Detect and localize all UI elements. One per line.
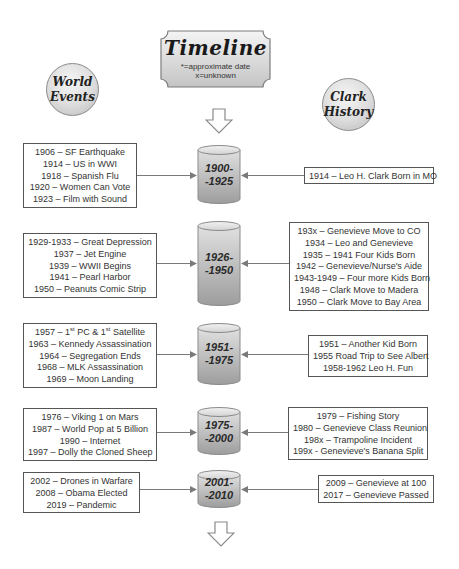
clark-history-box-1900-1925: 1914 – Leo H. Clark Born in MO bbox=[304, 167, 434, 184]
era-label-line2: -2010 bbox=[197, 489, 241, 502]
world-event-item: 1941 – Pearl Harbor bbox=[28, 272, 152, 284]
era-label-line2: -1925 bbox=[197, 175, 241, 188]
clark-history-item: 2017 – Genevieve Passed bbox=[323, 490, 429, 502]
era-label-line1: 1951- bbox=[197, 341, 241, 354]
world-events-line1: World bbox=[50, 75, 95, 90]
world-event-item: 2019 – Pandemic bbox=[28, 500, 135, 512]
clark-history-item: 1934 – Leo and Genevieve bbox=[294, 238, 424, 250]
world-event-item: 1937 – Jet Engine bbox=[28, 249, 152, 261]
clark-history-item: 1958-1962 Leo H. Fun bbox=[313, 363, 423, 375]
era-label-line2: -2000 bbox=[197, 432, 241, 445]
world-event-item: 1976 – Viking 1 on Mars bbox=[28, 412, 152, 424]
legend-approx: *=approximate date bbox=[160, 62, 271, 71]
clark-history-box-2001-2010: 2009 – Genevieve at 100 2017 – Genevieve… bbox=[318, 475, 434, 503]
clark-history-box-1951-1975: 1951 – Another Kid Born 1955 Road Trip t… bbox=[308, 335, 428, 377]
clark-history-line1: Clark bbox=[324, 90, 374, 105]
era-label: 1951--1975 bbox=[197, 341, 241, 367]
world-events-box-1926-1950: 1929-1933 – Great Depression 1937 – Jet … bbox=[23, 233, 157, 298]
world-event-item: 1968 – MLK Assassination bbox=[28, 362, 152, 374]
connector-line bbox=[157, 263, 194, 264]
clark-history-header: Clark History bbox=[322, 78, 375, 131]
connector-line bbox=[157, 432, 194, 433]
era-label: 1975--2000 bbox=[197, 419, 241, 445]
connector-line bbox=[157, 354, 194, 355]
connector-line bbox=[245, 263, 289, 264]
era-cylinder-1926-1950: 1926--1950 bbox=[197, 221, 241, 306]
down-arrow-icon bbox=[207, 521, 235, 547]
world-event-item: 1990 – Internet bbox=[28, 436, 152, 448]
clark-history-item: 1942 – Genevieve/Nurse's Aide bbox=[294, 261, 424, 273]
clark-history-item: 1935 – 1941 Four Kids Born bbox=[294, 250, 424, 262]
clark-history-item: 193x – Genevieve Move to CO bbox=[294, 226, 424, 238]
arrowhead-right-icon bbox=[190, 429, 197, 436]
era-label-line1: 1900- bbox=[197, 162, 241, 175]
clark-history-item: 1950 – Clark Move to Bay Area bbox=[294, 297, 424, 309]
era-label-line1: 2001- bbox=[197, 476, 241, 489]
world-events-box-1951-1975: 1957 – 1st PC & 1st Satellite 1963 – Ken… bbox=[23, 323, 157, 388]
world-events-box-1900-1925: 1906 – SF Earthquake 1914 – US in WWI 19… bbox=[23, 143, 137, 208]
connector-line bbox=[245, 354, 308, 355]
clark-history-item: 1955 Road Trip to See Albert bbox=[313, 351, 423, 363]
clark-history-item: 1948 – Clark Move to Madera bbox=[294, 285, 424, 297]
era-cylinder-1900-1925: 1900--1925 bbox=[197, 145, 241, 204]
world-event-item: 1957 – 1st PC & 1st Satellite bbox=[28, 327, 152, 339]
world-event-item: 1929-1933 – Great Depression bbox=[28, 237, 152, 249]
world-event-item: 1997 – Dolly the Cloned Sheep bbox=[28, 447, 152, 459]
connector-line bbox=[137, 175, 194, 176]
world-event-item: 1964 – Segregation Ends bbox=[28, 351, 152, 363]
connector-line bbox=[245, 432, 288, 433]
legend-unknown: x=unknown bbox=[160, 71, 271, 80]
clark-history-box-1926-1950: 193x – Genevieve Move to CO 1934 – Leo a… bbox=[289, 222, 429, 311]
timeline-title-plaque: Timeline *=approximate date x=unknown bbox=[160, 30, 271, 88]
connector-line bbox=[140, 489, 194, 490]
world-event-item: 1969 – Moon Landing bbox=[28, 374, 152, 386]
era-cylinder-1975-2000: 1975--2000 bbox=[197, 407, 241, 455]
clark-history-box-1975-2000: 1979 – Fishing Story 1980 – Genevieve Cl… bbox=[288, 407, 428, 460]
legend-note: *=approximate date x=unknown bbox=[160, 62, 271, 80]
world-event-item: 1939 – WWII Begins bbox=[28, 261, 152, 273]
world-event-text: Satellite bbox=[110, 327, 145, 337]
era-label: 2001--2010 bbox=[197, 476, 241, 502]
clark-history-item: 2009 – Genevieve at 100 bbox=[323, 478, 429, 490]
era-label-line1: 1926- bbox=[197, 251, 241, 264]
clark-history-item: 1980 – Genevieve Class Reunion bbox=[293, 423, 423, 435]
world-event-text: PC & 1 bbox=[75, 327, 106, 337]
arrowhead-right-icon bbox=[190, 172, 197, 179]
era-label: 1926--1950 bbox=[197, 251, 241, 277]
clark-history-item: 1979 – Fishing Story bbox=[293, 411, 423, 423]
world-event-item: 2002 – Drones in Warfare bbox=[28, 476, 135, 488]
world-event-item: 1963 – Kennedy Assassination bbox=[28, 339, 152, 351]
arrowhead-right-icon bbox=[190, 351, 197, 358]
world-event-item: 1920 – Women Can Vote bbox=[28, 182, 132, 194]
world-events-header: World Events bbox=[46, 63, 99, 116]
clark-history-line2: History bbox=[324, 105, 374, 120]
connector-line bbox=[245, 489, 319, 490]
world-event-item: 1914 – US in WWI bbox=[28, 159, 132, 171]
clark-history-item: 198x – Trampoline Incident bbox=[293, 435, 423, 447]
era-label-line1: 1975- bbox=[197, 419, 241, 432]
clark-history-item: 1951 – Another Kid Born bbox=[313, 339, 423, 351]
era-cylinder-2001-2010: 2001--2010 bbox=[197, 470, 241, 508]
clark-history-item: 1914 – Leo H. Clark Born in MO bbox=[309, 170, 429, 182]
arrowhead-right-icon bbox=[190, 486, 197, 493]
era-cylinder-1951-1975: 1951--1975 bbox=[197, 323, 241, 385]
world-event-item: 1950 – Peanuts Comic Strip bbox=[28, 284, 152, 296]
era-label-line2: -1950 bbox=[197, 264, 241, 277]
world-event-item: 2008 – Obama Elected bbox=[28, 488, 135, 500]
down-arrow-icon bbox=[205, 108, 233, 134]
page-title: Timeline bbox=[160, 36, 271, 60]
era-label-line2: -1975 bbox=[197, 354, 241, 367]
connector-line bbox=[245, 175, 304, 176]
world-event-item: 1906 – SF Earthquake bbox=[28, 147, 132, 159]
arrowhead-right-icon bbox=[190, 260, 197, 267]
world-event-item: 1987 – World Pop at 5 Billion bbox=[28, 424, 152, 436]
world-events-box-2001-2010: 2002 – Drones in Warfare 2008 – Obama El… bbox=[23, 472, 140, 513]
clark-history-item: 199x - Genevieve's Banana Split bbox=[293, 446, 423, 458]
world-event-item: 1918 – Spanish Flu bbox=[28, 171, 132, 183]
world-events-box-1975-2000: 1976 – Viking 1 on Mars 1987 – World Pop… bbox=[23, 408, 157, 461]
world-event-text: 1957 – 1 bbox=[35, 327, 70, 337]
world-event-item: 1923 – Film with Sound bbox=[28, 194, 132, 206]
clark-history-item: 1943-1949 – Four more Kids Born bbox=[294, 273, 424, 285]
world-events-line2: Events bbox=[50, 90, 95, 105]
era-label: 1900--1925 bbox=[197, 162, 241, 188]
